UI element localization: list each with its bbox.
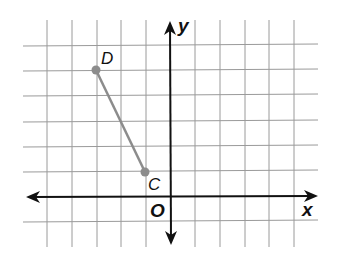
y-axis bbox=[164, 21, 177, 245]
point-d-label: D bbox=[101, 49, 113, 68]
x-axis bbox=[26, 190, 318, 203]
x-axis-label: x bbox=[301, 199, 314, 220]
y-axis-label: y bbox=[177, 15, 190, 36]
point-d bbox=[92, 66, 101, 75]
origin-label: O bbox=[150, 200, 165, 221]
point-c-label: C bbox=[148, 175, 161, 194]
coordinate-plane: D C O y x bbox=[0, 0, 342, 257]
